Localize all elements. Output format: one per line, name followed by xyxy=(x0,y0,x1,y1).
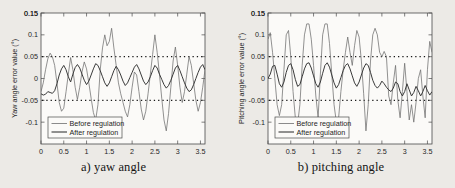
y-tick-label: 0.05 xyxy=(24,52,38,61)
x-tick-label: 3 xyxy=(403,147,407,156)
y-tick-label: 0 xyxy=(261,74,265,83)
y-tick-label: -0.05 xyxy=(22,96,38,105)
x-tick-label: 0.5 xyxy=(59,147,69,156)
panel-pitching-angle: 00.511.522.533.5-0.1-0.0500.050.10.150.1… xyxy=(227,0,455,188)
x-tick-label: 3.5 xyxy=(422,147,432,156)
legend-label: After regulation xyxy=(297,128,346,137)
x-tick-label: 0 xyxy=(39,147,43,156)
x-tick-label: 2.5 xyxy=(377,147,387,156)
x-tick-label: 2 xyxy=(357,147,361,156)
y-tick-label: 0 xyxy=(34,74,38,83)
y-tick-label: -0.05 xyxy=(249,96,265,105)
y-tick-label: 0.15 xyxy=(251,9,265,18)
x-tick-label: 0 xyxy=(266,147,270,156)
x-tick-label: 1 xyxy=(85,147,89,156)
y-axis-title: Pitching angle error value (°) xyxy=(237,33,246,124)
y-tick-label: 0.05 xyxy=(251,52,265,61)
x-tick-label: 2.5 xyxy=(150,147,160,156)
x-tick-label: 1.5 xyxy=(104,147,114,156)
y-axis-title: Yaw angle error value (°) xyxy=(10,39,19,118)
panel-caption-a: a) yaw angle xyxy=(0,160,227,175)
y-tick-label: -0.1 xyxy=(253,118,265,127)
figure-container: 00.511.522.533.5-0.1-0.0500.050.10.150.1… xyxy=(0,0,455,188)
y-tick-label: -0.1 xyxy=(26,118,38,127)
x-tick-label: 1.5 xyxy=(331,147,341,156)
x-tick-label: 1 xyxy=(312,147,316,156)
legend-label: After regulation xyxy=(70,128,119,137)
x-tick-label: 2 xyxy=(130,147,134,156)
panel-yaw-angle: 00.511.522.533.5-0.1-0.0500.050.10.150.1… xyxy=(0,0,227,188)
pitching-angle-plot: 00.511.522.533.5-0.1-0.0500.050.10.150.1… xyxy=(227,0,455,160)
y-tick-label: 0.1 xyxy=(255,30,265,39)
y-tick-label: 0.1 xyxy=(28,30,38,39)
x-tick-label: 0.5 xyxy=(286,147,296,156)
x-tick-label: 3.5 xyxy=(195,147,205,156)
y-tick-label: 0.15 xyxy=(24,9,38,18)
x-tick-label: 3 xyxy=(176,147,180,156)
panel-caption-b: b) pitching angle xyxy=(227,160,455,175)
yaw-angle-plot: 00.511.522.533.5-0.1-0.0500.050.10.150.1… xyxy=(0,0,227,160)
